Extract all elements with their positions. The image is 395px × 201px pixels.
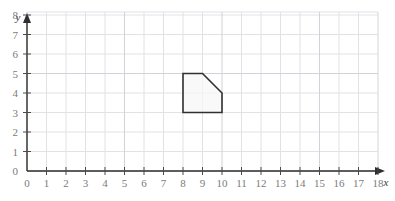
pentagon-figure [183,74,222,113]
y-tick-label: 7 [13,29,19,41]
y-tick-label: 1 [13,146,19,158]
x-axis-label: x [383,176,389,188]
x-axis-arrow-icon [375,167,385,175]
x-tick-label: 6 [141,177,147,189]
y-tick-label: 5 [13,68,19,80]
x-tick-label: 3 [83,177,89,189]
y-tick-label: 0 [13,165,19,177]
x-tick-label: 9 [200,177,206,189]
y-tick-label: 2 [13,126,19,138]
x-tick-label: 8 [180,177,186,189]
x-tick-label: 0 [24,177,30,189]
x-tick-label: 1 [44,177,50,189]
x-tick-label: 14 [295,177,307,189]
x-tick-label: 11 [236,177,247,189]
x-tick-label: 5 [122,177,128,189]
y-tick-label: 4 [13,87,19,99]
x-tick-label: 10 [217,177,229,189]
coordinate-plane-figure: 0123456789101112131415161718 012345678 x… [0,0,395,201]
x-tick-label: 15 [314,177,326,189]
y-axis-ticks: 012345678 [13,9,32,177]
x-tick-label: 12 [256,177,267,189]
x-tick-label: 18 [373,177,385,189]
y-tick-label: 6 [13,48,19,60]
x-tick-label: 4 [102,177,108,189]
plotted-shapes [183,74,222,113]
x-tick-label: 7 [161,177,167,189]
y-axis-label: y [15,11,21,23]
x-tick-label: 13 [275,177,287,189]
x-tick-label: 16 [334,177,346,189]
x-tick-label: 2 [63,177,69,189]
plot-canvas: 0123456789101112131415161718 012345678 x… [0,0,395,201]
x-tick-label: 17 [353,177,365,189]
y-tick-label: 3 [13,107,19,119]
